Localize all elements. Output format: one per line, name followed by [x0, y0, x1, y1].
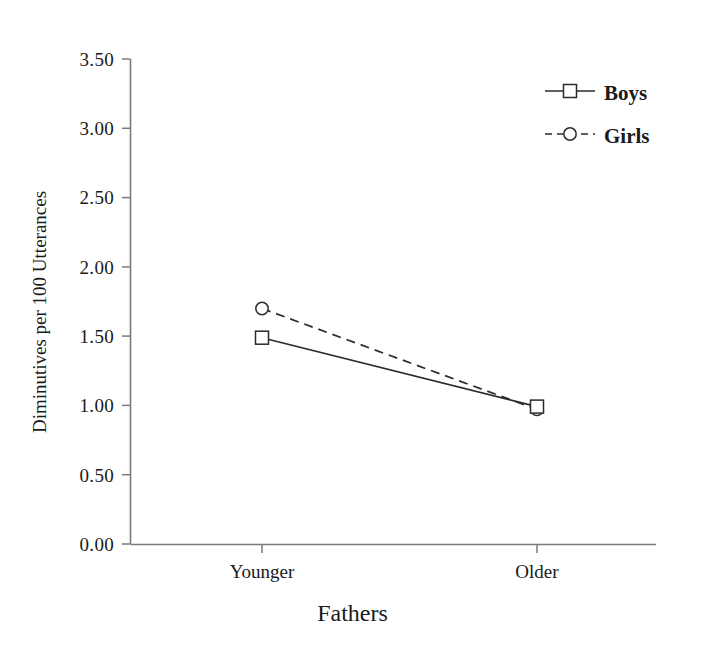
- x-tick-label-younger: Younger: [230, 562, 295, 581]
- x-tick-marks: [262, 545, 537, 554]
- series-boys: [256, 331, 544, 413]
- legend-girls-swatch: [545, 128, 595, 140]
- y-tick-label-2-50: 2.50: [52, 188, 114, 207]
- line-chart: 3.50 3.00 2.50 2.00 1.50 1.00 0.50 0.00 …: [0, 0, 705, 656]
- data-point-boys-older: [531, 400, 544, 413]
- y-tick-label-0-50: 0.50: [52, 466, 114, 485]
- data-point-girls-younger: [256, 302, 268, 314]
- y-tick-label-1-00: 1.00: [52, 396, 114, 415]
- y-tick-label-2-00: 2.00: [52, 258, 114, 277]
- data-point-boys-younger: [256, 331, 269, 344]
- legend-item-girls: Girls: [604, 126, 650, 147]
- y-tick-marks: [122, 59, 130, 544]
- y-tick-label-1-50: 1.50: [52, 327, 114, 346]
- series-girls: [256, 302, 543, 415]
- legend-boys-swatch: [545, 85, 595, 98]
- legend-item-boys: Boys: [604, 83, 647, 104]
- series-girls-line: [262, 309, 537, 410]
- y-tick-label-0-00: 0.00: [52, 535, 114, 554]
- y-tick-label-3-00: 3.00: [52, 119, 114, 138]
- y-tick-label-3-50: 3.50: [52, 50, 114, 69]
- series-boys-line: [262, 338, 537, 407]
- x-axis-title: Fathers: [0, 600, 705, 627]
- x-tick-label-older: Older: [515, 562, 558, 581]
- y-axis-title: Diminutives per 100 Utterances: [29, 162, 51, 462]
